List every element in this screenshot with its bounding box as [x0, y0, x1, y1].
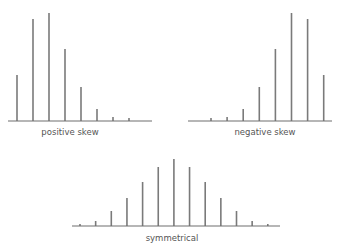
symmetrical-label: symmetrical [146, 233, 199, 243]
chart-symmetrical: symmetrical [72, 159, 280, 243]
chart-negative-skew: negative skew [188, 13, 332, 137]
skew-charts: positive skew negative skew symmetrical [0, 0, 337, 244]
chart-positive-skew: positive skew [8, 13, 152, 137]
positive-skew-label: positive skew [41, 127, 98, 137]
negative-skew-label: negative skew [234, 127, 295, 137]
